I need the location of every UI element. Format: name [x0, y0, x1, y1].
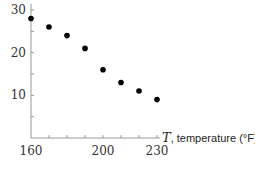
data-point	[28, 16, 34, 22]
x-axis-label-text: , temperature (°F)	[171, 132, 255, 144]
axes	[31, 4, 160, 138]
data-point	[46, 24, 52, 30]
data-point	[82, 46, 88, 52]
x-tick-label: 230	[146, 144, 169, 158]
x-axis-label: T, temperature (°F)	[162, 130, 255, 145]
data-point	[136, 88, 142, 94]
data-point	[100, 67, 106, 73]
y-tick-label: 20	[11, 46, 26, 60]
data-point	[64, 33, 70, 39]
y-tick-label: 30	[11, 3, 26, 17]
x-tick-label: 160	[20, 144, 43, 158]
tick-labels: 102030160200230	[11, 3, 169, 158]
data-point	[154, 97, 160, 103]
y-tick-label: 10	[11, 88, 26, 102]
x-tick-label: 200	[92, 144, 115, 158]
data-points	[28, 16, 160, 103]
scatter-chart: 102030160200230 T, temperature (°F)	[0, 0, 255, 169]
data-point	[118, 80, 124, 86]
